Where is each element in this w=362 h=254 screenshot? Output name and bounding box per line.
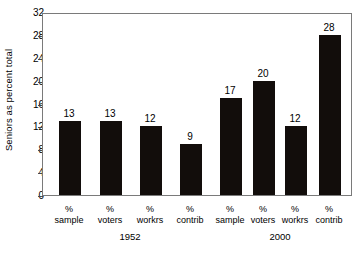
bar [220, 98, 242, 195]
bar [59, 121, 81, 195]
category-name: sample [47, 215, 91, 226]
bar [319, 35, 341, 195]
bar-value-label: 12 [130, 114, 170, 124]
category-name: voters [88, 215, 132, 226]
bar [253, 81, 275, 195]
category-name: contrib [307, 215, 351, 226]
x-category-label: %voters [88, 204, 132, 226]
percent-symbol: % [88, 204, 132, 215]
percent-symbol: % [47, 204, 91, 215]
bar [180, 144, 202, 195]
y-tick-mark-0 [38, 196, 43, 197]
bar-chart: Seniors as percent total 322824201612840… [0, 0, 362, 254]
x-category-label: %contrib [168, 204, 212, 226]
bar-value-label: 28 [309, 23, 349, 33]
bar-value-label: 13 [49, 109, 89, 119]
percent-symbol: % [168, 204, 212, 215]
group-label-2000: 2000 [250, 231, 310, 242]
bar-value-label: 12 [275, 114, 315, 124]
bar-value-label: 13 [90, 109, 130, 119]
x-category-label: %contrib [307, 204, 351, 226]
group-label-1952: 1952 [100, 231, 160, 242]
plot-area [42, 13, 352, 196]
percent-symbol: % [128, 204, 172, 215]
bar-value-label: 9 [170, 132, 210, 142]
category-name: contrib [168, 215, 212, 226]
x-category-label: %sample [47, 204, 91, 226]
bar [285, 126, 307, 195]
percent-symbol: % [307, 204, 351, 215]
bar-value-label: 20 [243, 69, 283, 79]
y-axis-title: Seniors as percent total [2, 2, 16, 198]
bar [100, 121, 122, 195]
category-name: workrs [128, 215, 172, 226]
y-tick-label-32: 32 [18, 8, 44, 18]
bar [140, 126, 162, 195]
x-category-label: %workrs [128, 204, 172, 226]
bar-value-label: 17 [210, 86, 250, 96]
